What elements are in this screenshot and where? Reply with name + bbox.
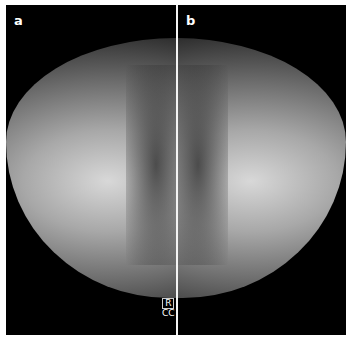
panel-b: b xyxy=(178,5,346,335)
view-marker: R CC xyxy=(162,298,175,318)
panel-a: a xyxy=(6,5,176,335)
view-marker-text: CC xyxy=(162,308,175,318)
tissue-shadow xyxy=(126,65,176,265)
panel-label-a: a xyxy=(14,13,23,28)
panel-label-b: b xyxy=(186,13,195,28)
tissue-shadow xyxy=(178,65,228,265)
